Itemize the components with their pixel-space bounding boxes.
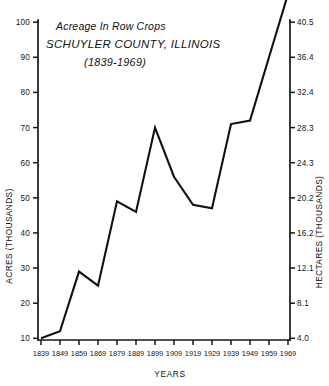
y-axis-right-tick-labels: 40.5 36.4 32.4 28.3 24.3 20.2 16.2 12.1 … [297,18,314,343]
y-tick-label: 50 [20,194,30,203]
y-tick-label: 100 [16,18,31,27]
y-tick-label: 40 [20,229,30,238]
data-series-acreage [41,0,288,338]
y-tick-label: 30 [20,264,30,273]
y-tick-label: 90 [20,53,30,62]
y2-tick-label: 40.5 [297,18,314,27]
y2-tick-label: 4.0 [297,334,309,343]
y-tick-label: 70 [20,124,30,133]
y-axis-right-title: HECTARES (THOUSANDS) [314,176,324,288]
x-axis-tick-labels: 1839 1849 1859 1869 1879 1889 1899 1909 … [33,349,296,358]
y2-tick-label: 16.2 [297,229,314,238]
x-tick-label: 1849 [52,349,68,358]
x-tick-label: 1919 [185,349,201,358]
y2-tick-label: 28.3 [297,124,314,133]
x-tick-label: 1879 [109,349,125,358]
x-tick-label: 1899 [147,349,163,358]
x-tick-label: 1869 [90,349,106,358]
y2-tick-label: 12.1 [297,264,314,273]
chart-title-line-1: Acreage In Row Crops [55,20,166,32]
y-axis-left-title: ACRES (THOUSANDS) [4,188,14,283]
x-tick-label: 1939 [223,349,239,358]
y-tick-label: 60 [20,159,30,168]
x-tick-label: 1859 [71,349,87,358]
x-tick-label: 1959 [261,349,277,358]
chart-title: Acreage In Row Crops SCHUYLER COUNTY, IL… [46,20,221,68]
y2-tick-label: 8.1 [297,299,309,308]
x-tick-label: 1949 [242,349,258,358]
y2-tick-label: 20.2 [297,194,314,203]
y-tick-label: 20 [20,299,30,308]
x-axis-title: YEARS [154,369,185,379]
chart-container: Acreage In Row Crops SCHUYLER COUNTY, IL… [0,0,329,386]
y2-tick-label: 24.3 [297,159,314,168]
acreage-row-crops-line-chart: Acreage In Row Crops SCHUYLER COUNTY, IL… [0,0,329,386]
x-tick-label: 1889 [128,349,144,358]
chart-title-line-2: SCHUYLER COUNTY, ILLINOIS [46,38,221,50]
y-tick-label: 80 [20,88,30,97]
x-tick-label: 1909 [166,349,182,358]
x-tick-label: 1929 [204,349,220,358]
y2-tick-label: 32.4 [297,88,314,97]
y2-tick-label: 36.4 [297,53,314,62]
y-axis-left-tick-labels: 100 90 80 70 60 50 40 30 20 10 [16,18,31,343]
y-tick-label: 10 [20,334,30,343]
data-line [41,0,288,338]
x-tick-label: 1969 [280,349,296,358]
chart-title-line-3: (1839-1969) [84,56,146,68]
x-tick-label: 1839 [33,349,49,358]
